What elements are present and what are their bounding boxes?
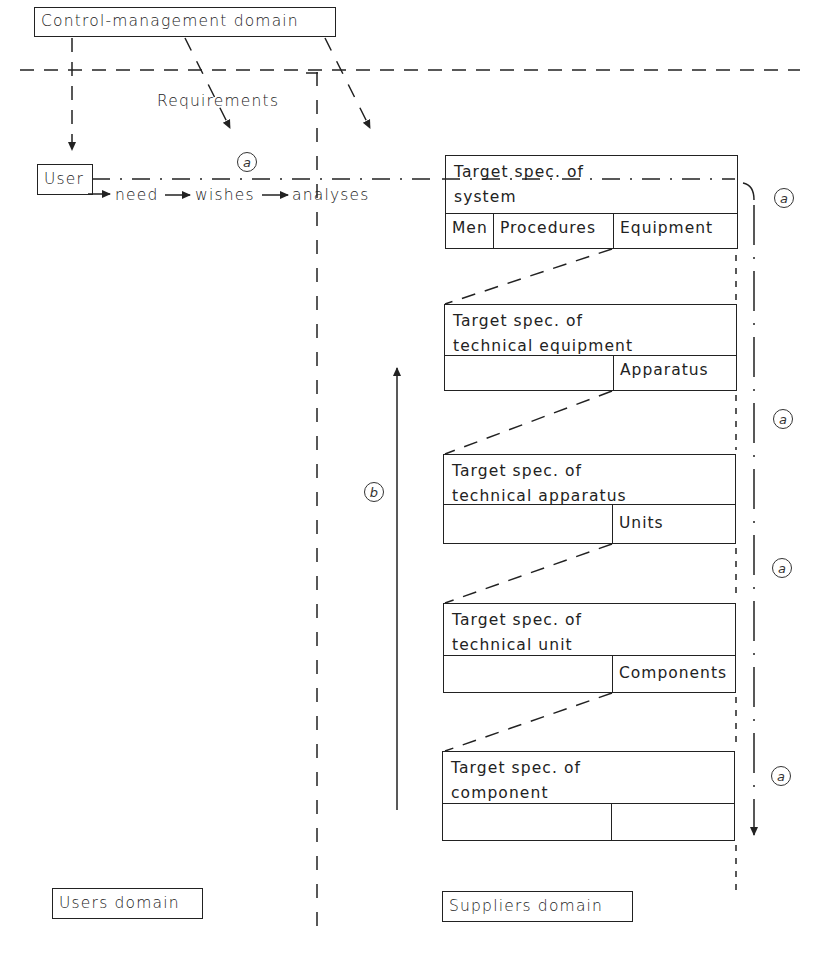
suppliers-domain-box: Suppliers domain [442, 891, 633, 922]
marker-a-top: a [237, 152, 257, 172]
spec-title: Target spec. of system [454, 160, 584, 210]
cell-components: Components [612, 656, 735, 692]
spec-title: Target spec. of technical equipment [453, 309, 633, 359]
requirements-label: Requirements [157, 92, 279, 110]
marker-a-1: a [774, 188, 794, 208]
control-management-domain-box: Control-management domain [34, 7, 336, 37]
marker-b: b [364, 482, 384, 502]
cell-apparatus: Apparatus [613, 356, 736, 390]
spec-row: Components [444, 655, 735, 692]
cell-procedures: Procedures [493, 214, 613, 248]
spec-row [443, 803, 734, 840]
suppliers-domain-label: Suppliers domain [449, 897, 603, 915]
users-domain-label: Users domain [59, 894, 180, 912]
cell-equipment: Equipment [613, 214, 737, 248]
cell-units: Units [612, 505, 735, 543]
spec-title: Target spec. of technical unit [452, 608, 582, 658]
spec-technical-apparatus: Target spec. of technical apparatus Unit… [443, 454, 736, 544]
cell-empty [444, 505, 612, 543]
spec-system: Target spec. of system Men Procedures Eq… [445, 155, 738, 249]
spec-row: Units [444, 504, 735, 543]
cell-empty [443, 804, 611, 840]
control-management-domain-label: Control-management domain [41, 12, 299, 30]
spec-row: Men Procedures Equipment [446, 213, 737, 248]
spec-title: Target spec. of component [451, 756, 581, 806]
spec-technical-equipment: Target spec. of technical equipment Appa… [444, 304, 737, 391]
spec-component: Target spec. of component [442, 751, 735, 841]
cell-empty [445, 356, 613, 390]
spec-row: Apparatus [445, 355, 736, 390]
analyses-label: analyses [292, 186, 370, 204]
spec-title: Target spec. of technical apparatus [452, 459, 627, 509]
marker-a-2: a [773, 409, 793, 429]
wishes-label: wishes [195, 186, 255, 204]
spec-technical-unit: Target spec. of technical unit Component… [443, 603, 736, 693]
user-box: User [37, 164, 93, 195]
marker-a-4: a [771, 766, 791, 786]
cell-empty [444, 656, 612, 692]
users-domain-box: Users domain [52, 888, 203, 919]
cell-men: Men [446, 214, 493, 248]
cell-empty [611, 804, 734, 840]
user-label: User [44, 170, 84, 188]
marker-a-3: a [772, 558, 792, 578]
need-label: need [115, 186, 159, 204]
